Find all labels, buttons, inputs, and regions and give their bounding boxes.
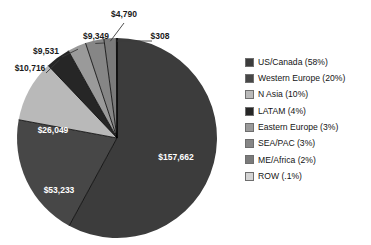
legend-swatch-icon [245, 58, 254, 67]
slice-label-sea-pac: $9,349 [83, 31, 109, 41]
slice-label-us-canada: $157,662 [158, 152, 194, 162]
slice-label-row: $308 [151, 31, 170, 41]
legend-item-label: Eastern Europe (3%) [258, 123, 338, 132]
slice-label-western-europe: $53,233 [44, 185, 75, 195]
legend-item-label: N Asia (10%) [258, 90, 308, 99]
legend-item[interactable]: N Asia (10%) [245, 87, 371, 103]
legend-item[interactable]: US/Canada (58%) [245, 54, 371, 70]
legend-item[interactable]: ROW (.1%) [245, 168, 371, 184]
legend-swatch-icon [245, 139, 254, 148]
legend-swatch-icon [245, 107, 254, 116]
legend-item[interactable]: SEA/PAC (3%) [245, 135, 371, 151]
legend-swatch-icon [245, 74, 254, 83]
legend-item-label: ROW (.1%) [258, 172, 302, 181]
slice-label-latam: $10,716 [15, 63, 46, 73]
legend-item[interactable]: ME/Africa (2%) [245, 152, 371, 168]
chart-legend: US/Canada (58%)Western Europe (20%)N Asi… [245, 54, 371, 184]
pie-chart: $157,662 $53,233 $26,049 $10,716 $9,531 … [0, 0, 371, 245]
legend-item-label: ME/Africa (2%) [258, 156, 316, 165]
slice-label-me-africa: $4,790 [111, 9, 137, 19]
legend-item[interactable]: LATAM (4%) [245, 103, 371, 119]
legend-swatch-icon [245, 172, 254, 181]
legend-item[interactable]: Eastern Europe (3%) [245, 119, 371, 135]
slice-label-n-asia: $26,049 [38, 125, 69, 135]
slice-label-eastern-europe: $9,531 [33, 46, 59, 56]
legend-swatch-icon [245, 123, 254, 132]
legend-item-label: SEA/PAC (3%) [258, 139, 315, 148]
legend-swatch-icon [245, 90, 254, 99]
legend-item[interactable]: Western Europe (20%) [245, 70, 371, 86]
legend-item-label: LATAM (4%) [258, 107, 306, 116]
legend-item-label: US/Canada (58%) [258, 58, 328, 67]
legend-item-label: Western Europe (20%) [258, 74, 345, 83]
legend-swatch-icon [245, 155, 254, 164]
